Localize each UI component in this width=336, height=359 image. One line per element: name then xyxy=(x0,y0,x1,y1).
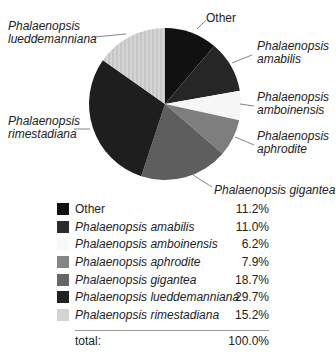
legend-row-rimestadiana: Phalaenopsis rimestadiana 15.2% xyxy=(57,307,269,325)
pie-label-lueddemanniana: Phalaenopsislueddemanniana xyxy=(8,20,97,46)
legend-row-lueddemanniana: Phalaenopsis lueddemanniana 29.7% xyxy=(57,289,269,307)
legend-value: 11.2% xyxy=(236,202,269,216)
legend-label: Phalaenopsis aphrodite xyxy=(75,255,200,269)
legend-row-aphrodite: Phalaenopsis aphrodite 7.9% xyxy=(57,254,269,272)
legend-value: 15.2% xyxy=(235,308,269,322)
pie-label-rimestadiana: Phalaenopsisrimestadiana xyxy=(8,115,80,141)
legend-row-other: Other 11.2% xyxy=(57,201,269,219)
pie-label-amboinensis: Phalaenopsisamboinensis xyxy=(257,91,329,117)
pie-label-gigantea: Phalaenopsis gigantea xyxy=(214,184,335,197)
legend-swatch xyxy=(57,291,69,303)
total-value: 100.0% xyxy=(228,334,269,348)
legend-swatch xyxy=(57,238,69,250)
legend-row-amabilis: Phalaenopsis amabilis 11.0% xyxy=(57,219,269,237)
pie-label-aphrodite: Phalaenopsisaphrodite xyxy=(257,130,329,156)
legend-label: Phalaenopsis gigantea xyxy=(75,273,196,287)
legend-swatch xyxy=(57,274,69,286)
pie-slices xyxy=(89,28,241,180)
legend-label: Phalaenopsis rimestadiana xyxy=(75,308,219,322)
legend-swatch xyxy=(57,309,69,321)
legend-swatch xyxy=(57,221,69,233)
pie-label-other: Other xyxy=(206,12,236,25)
legend-value: 18.7% xyxy=(235,273,269,287)
pie-label-amabilis: Phalaenopsisamabilis xyxy=(257,40,329,66)
legend-value: 11.0% xyxy=(236,220,269,234)
total-label: total: xyxy=(75,334,101,348)
legend-row-amboinensis: Phalaenopsis amboinensis 6.2% xyxy=(57,236,269,254)
legend: Other 11.2% Phalaenopsis amabilis 11.0% … xyxy=(57,201,269,325)
legend-value: 6.2% xyxy=(242,237,269,251)
legend-label: Phalaenopsis amboinensis xyxy=(75,237,218,251)
legend-value: 29.7% xyxy=(235,290,269,304)
legend-value: 7.9% xyxy=(242,255,269,269)
legend-label: Phalaenopsis lueddemanniana xyxy=(75,290,239,304)
legend-swatch xyxy=(57,256,69,268)
legend-row-gigantea: Phalaenopsis gigantea 18.7% xyxy=(57,272,269,290)
total-divider xyxy=(75,330,269,331)
legend-swatch xyxy=(57,203,69,215)
legend-label: Phalaenopsis amabilis xyxy=(75,220,194,234)
legend-label: Other xyxy=(75,202,105,216)
